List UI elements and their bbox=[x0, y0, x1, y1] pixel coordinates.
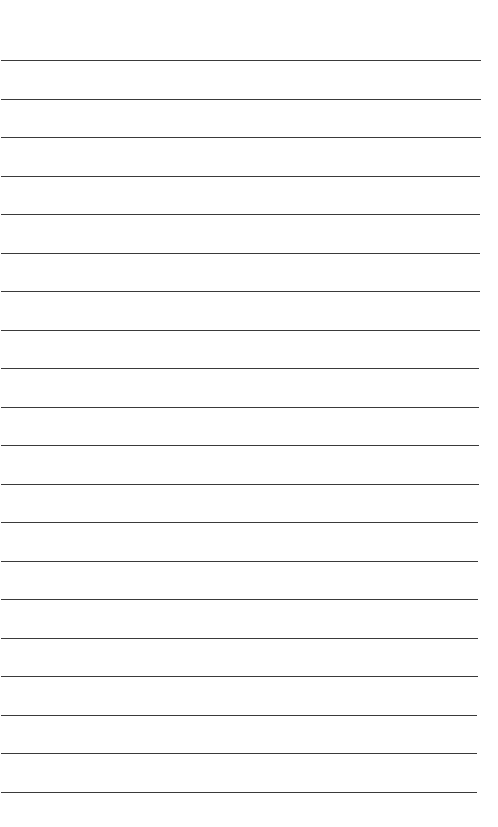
ruled-line bbox=[1, 330, 480, 331]
ruled-line bbox=[1, 792, 477, 793]
ruled-line bbox=[1, 599, 478, 600]
ruled-line bbox=[1, 253, 480, 254]
ruled-line bbox=[1, 522, 478, 523]
ruled-line bbox=[1, 291, 480, 292]
ruled-line bbox=[1, 99, 481, 100]
ruled-line bbox=[1, 753, 477, 754]
lined-paper-page bbox=[0, 0, 498, 827]
ruled-line bbox=[1, 137, 481, 138]
ruled-line bbox=[1, 368, 479, 369]
ruled-line bbox=[1, 214, 480, 215]
ruled-line bbox=[1, 176, 480, 177]
ruled-line bbox=[1, 484, 479, 485]
ruled-line bbox=[1, 407, 479, 408]
ruled-line bbox=[1, 60, 481, 61]
ruled-line bbox=[1, 445, 479, 446]
ruled-line bbox=[1, 715, 477, 716]
ruled-line bbox=[1, 638, 478, 639]
ruled-line bbox=[1, 561, 478, 562]
ruled-line bbox=[1, 676, 478, 677]
